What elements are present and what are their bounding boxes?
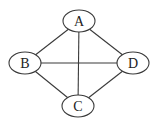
node-d: D (117, 52, 149, 74)
node-d-label: D (128, 56, 138, 71)
node-c: C (62, 95, 94, 117)
node-b-label: B (20, 56, 29, 71)
node-a-label: A (74, 14, 85, 29)
node-c-label: C (73, 99, 82, 114)
graph-diagram: A B C D (0, 0, 157, 132)
node-b: B (9, 52, 41, 74)
node-a: A (63, 10, 95, 32)
